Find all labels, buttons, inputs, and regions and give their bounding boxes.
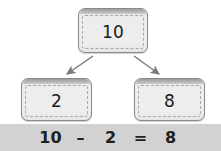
card-part-2-value: 8 — [135, 85, 204, 117]
card-whole-value: 10 — [79, 15, 147, 49]
card-lid-icon — [80, 9, 146, 14]
card-part-1-value: 2 — [22, 85, 91, 117]
number-card-part-1[interactable]: 2 — [21, 78, 92, 121]
equation-difference: 8 — [156, 130, 186, 146]
arrow-whole-to-part-2 — [134, 56, 159, 74]
arrow-whole-to-part-1 — [67, 56, 93, 74]
number-bond-diagram: 10 2 8 10 – 2 = 8 — [0, 0, 221, 151]
card-lid-icon — [136, 79, 203, 84]
number-card-whole[interactable]: 10 — [78, 8, 148, 53]
equation-equals-sign: = — [126, 130, 156, 146]
equation-subtrahend: 2 — [96, 130, 126, 146]
number-card-part-2[interactable]: 8 — [134, 78, 205, 121]
card-lid-icon — [23, 79, 90, 84]
equation-bar: 10 – 2 = 8 — [0, 124, 221, 151]
equation-minus-sign: – — [66, 130, 96, 146]
equation-minuend: 10 — [36, 130, 66, 146]
